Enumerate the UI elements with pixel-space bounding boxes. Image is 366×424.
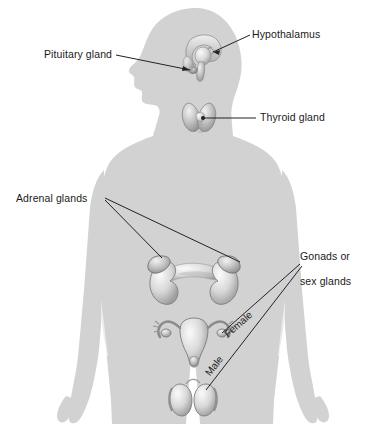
testis-right xyxy=(194,384,216,416)
label-adrenal-glands: Adrenal glands xyxy=(16,192,87,204)
endocrine-system-diagram: Hypothalamus Pituitary gland Thyroid gla… xyxy=(0,0,366,424)
label-thyroid-gland: Thyroid gland xyxy=(260,111,325,123)
label-hypothalamus: Hypothalamus xyxy=(252,28,320,40)
arm-left xyxy=(69,170,104,423)
arm-right xyxy=(282,170,317,423)
label-gonads-line1: Gonads or xyxy=(300,250,350,262)
diagram-canvas xyxy=(0,0,366,424)
cervix-shape xyxy=(190,357,199,367)
brain-stem xyxy=(197,62,205,81)
leader-thyroid-dot xyxy=(201,116,205,120)
label-gonads-line2: sex glands xyxy=(300,275,351,287)
testis-left xyxy=(170,384,192,416)
ovary-left xyxy=(161,329,171,337)
label-gonads-sex-glands: Gonads or sex glands xyxy=(300,237,351,287)
label-pituitary-gland: Pituitary gland xyxy=(44,48,112,60)
